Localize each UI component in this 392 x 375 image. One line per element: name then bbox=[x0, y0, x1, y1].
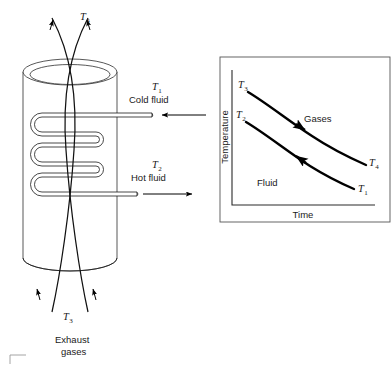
label-hot-fluid: Hot fluid bbox=[131, 172, 166, 183]
label-exhaust-line2: gases bbox=[61, 346, 87, 357]
chart-y-axis-label: Temperature bbox=[219, 110, 230, 163]
chart-x-axis-label: Time bbox=[293, 209, 314, 220]
chart-series-label-gases: Gases bbox=[304, 113, 332, 124]
label-cold-fluid: Cold fluid bbox=[129, 94, 169, 105]
figure-root: T4 T3 T1 Cold fluid T2 Hot fluid Exhaust… bbox=[0, 0, 392, 375]
chart-series-label-fluid: Fluid bbox=[257, 177, 278, 188]
label-exhaust-line1: Exhaust bbox=[55, 334, 90, 345]
figure-canvas: T4 T3 T1 Cold fluid T2 Hot fluid Exhaust… bbox=[0, 0, 392, 375]
